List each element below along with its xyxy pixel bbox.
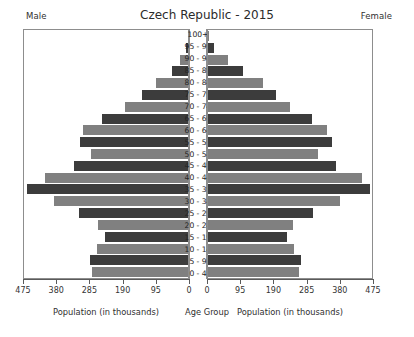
bar-row: [24, 101, 188, 113]
bar-row: [24, 184, 188, 196]
bar-row: [208, 266, 372, 278]
axis-tick-label: 0: [186, 286, 191, 295]
male-plot-panel: [23, 29, 189, 279]
chart-title: Czech Republic - 2015: [0, 8, 414, 22]
bar-row: [24, 30, 188, 42]
female-axis-title: Population (in thousands): [207, 307, 373, 317]
bar-row: [24, 243, 188, 255]
bar-row: [208, 65, 372, 77]
axis-tick-label: 190: [266, 286, 281, 295]
axis-tick-label: 0: [204, 286, 209, 295]
bar-row: [208, 136, 372, 148]
bar-row: [208, 231, 372, 243]
female-x-axis: [207, 279, 373, 286]
bar-female: [208, 244, 294, 254]
axis-tick: [123, 279, 124, 284]
bar-row: [208, 243, 372, 255]
axis-tick-label: 285: [299, 286, 314, 295]
bar-male: [74, 161, 188, 171]
bar-row: [24, 195, 188, 207]
bar-male: [91, 149, 188, 159]
bar-row: [24, 65, 188, 77]
bar-female: [208, 78, 263, 88]
bar-row: [208, 160, 372, 172]
axis-tick: [307, 279, 308, 284]
bar-female: [208, 208, 313, 218]
bar-male: [80, 137, 188, 147]
bar-female: [208, 173, 362, 183]
axis-tick: [340, 279, 341, 284]
bar-row: [208, 207, 372, 219]
bar-male: [54, 196, 188, 206]
axis-tick: [23, 279, 24, 284]
bar-row: [24, 77, 188, 89]
bar-female: [208, 90, 276, 100]
male-x-ticklabels: 475380285190950: [23, 286, 189, 298]
bar-female: [208, 55, 228, 65]
bar-row: [24, 219, 188, 231]
axis-tick: [89, 279, 90, 284]
female-axis-line: [207, 279, 373, 280]
bar-female: [208, 232, 287, 242]
bar-female: [208, 125, 327, 135]
bar-row: [208, 254, 372, 266]
axis-tick: [189, 279, 190, 284]
axis-tick: [156, 279, 157, 284]
bar-male: [83, 125, 188, 135]
bar-female: [208, 220, 293, 230]
bar-female: [208, 114, 312, 124]
male-bar-rows: [24, 30, 188, 278]
bar-female: [208, 31, 209, 41]
bar-male: [45, 173, 188, 183]
bar-row: [24, 42, 188, 54]
bar-female: [208, 137, 332, 147]
bar-male: [92, 267, 188, 277]
bar-row: [24, 266, 188, 278]
axis-tick-label: 380: [332, 286, 347, 295]
bar-row: [208, 113, 372, 125]
bar-female: [208, 149, 318, 159]
bar-male: [90, 255, 188, 265]
bar-row: [24, 254, 188, 266]
axis-tick: [273, 279, 274, 284]
bar-female: [208, 43, 214, 53]
axis-tick-label: 95: [235, 286, 245, 295]
bar-row: [24, 160, 188, 172]
axis-tick: [56, 279, 57, 284]
bar-row: [208, 148, 372, 160]
axis-tick-label: 475: [15, 286, 30, 295]
bar-female: [208, 267, 299, 277]
bar-row: [24, 148, 188, 160]
bar-female: [208, 196, 340, 206]
bar-row: [24, 113, 188, 125]
bar-female: [208, 255, 301, 265]
axis-tick: [373, 279, 374, 284]
bar-row: [24, 125, 188, 137]
female-x-ticklabels: 095190285380475: [207, 286, 373, 298]
bar-row: [208, 219, 372, 231]
male-axis-line: [23, 279, 189, 280]
bar-row: [24, 89, 188, 101]
axis-tick-label: 190: [115, 286, 130, 295]
bar-row: [24, 54, 188, 66]
axis-tick: [207, 279, 208, 284]
bar-row: [24, 207, 188, 219]
bar-row: [208, 184, 372, 196]
bar-female: [208, 102, 290, 112]
bar-row: [208, 101, 372, 113]
bar-male: [27, 184, 188, 194]
bar-row: [208, 195, 372, 207]
bar-row: [24, 231, 188, 243]
female-plot-panel: [207, 29, 373, 279]
bar-row: [24, 136, 188, 148]
axis-tick-label: 95: [151, 286, 161, 295]
female-bar-rows: [208, 30, 372, 278]
bar-female: [208, 161, 336, 171]
bar-row: [208, 125, 372, 137]
bar-row: [208, 77, 372, 89]
population-pyramid-figure: Male Female Czech Republic - 2015 100+95…: [0, 0, 414, 337]
bar-row: [208, 54, 372, 66]
bar-row: [208, 89, 372, 101]
axis-tick-label: 285: [82, 286, 97, 295]
axis-tick: [240, 279, 241, 284]
